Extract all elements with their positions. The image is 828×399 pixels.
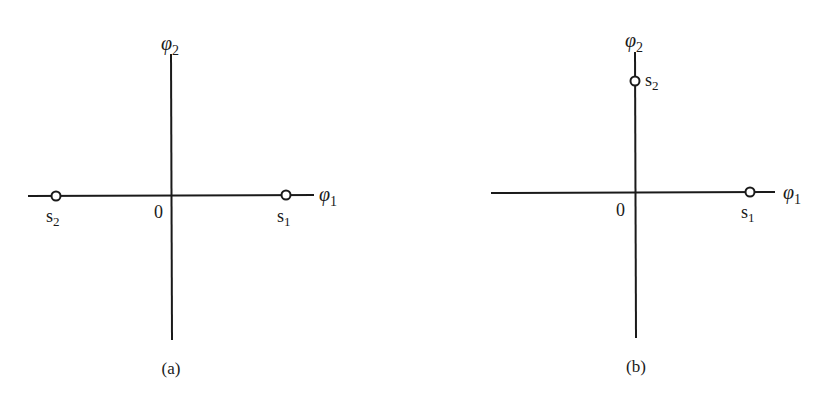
signal-constellation-figure: φ2 φ1 0 s2 s1 (a) φ2 φ1 0 s2 s1 (b) <box>0 0 828 399</box>
origin-label-a: 0 <box>154 202 163 222</box>
phi1-axis-a <box>28 195 314 196</box>
phi2-axis-b <box>635 52 636 338</box>
phi2-label-b: φ2 <box>625 29 643 55</box>
origin-label-b: 0 <box>616 200 625 220</box>
point-s2-a <box>52 192 61 201</box>
phi2-axis-a <box>171 54 172 340</box>
phi1-label-b: φ1 <box>783 181 801 207</box>
s1-label-b: s1 <box>741 202 755 225</box>
s2-label-a: s2 <box>46 206 60 229</box>
s2-label-b: s2 <box>645 70 659 93</box>
panel-a: φ2 φ1 0 s2 s1 (a) <box>28 32 337 378</box>
s1-label-a: s1 <box>277 206 291 229</box>
point-s2-b <box>631 77 640 86</box>
point-s1-a <box>282 191 291 200</box>
caption-a: (a) <box>162 359 181 378</box>
phi1-label-a: φ1 <box>319 183 337 209</box>
point-s1-b <box>746 188 755 197</box>
panel-b: φ2 φ1 0 s2 s1 (b) <box>491 29 801 376</box>
phi1-axis-b <box>491 192 775 193</box>
caption-b: (b) <box>626 357 646 376</box>
